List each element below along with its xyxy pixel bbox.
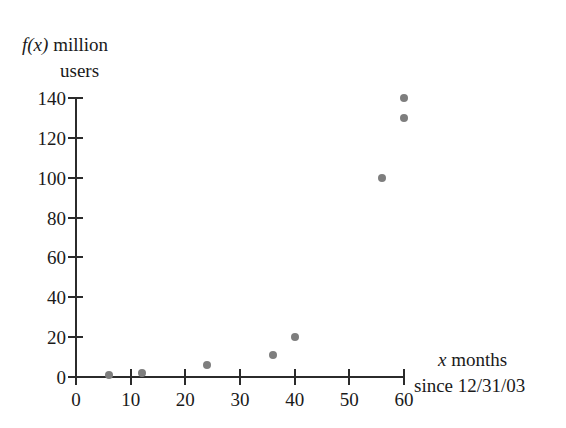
x-axis-tick-label: 50 [329,390,369,409]
y-axis-tick-label: 0 [18,368,66,387]
data-point [203,361,211,369]
x-axis-tick [184,369,186,385]
y-axis-title-function: f(x) [22,34,48,55]
y-axis-title-line2: users [60,58,99,84]
x-axis-tick [294,369,296,385]
x-axis-tick [348,369,350,385]
y-axis-tick [68,97,83,99]
x-axis-tick-label: 30 [220,390,260,409]
y-axis-tick [68,137,83,139]
x-axis-tick-label: 60 [384,390,424,409]
data-point [400,114,408,122]
x-axis-tick [403,369,405,385]
y-axis-title-line1: f(x) million [22,32,108,58]
y-axis-tick [68,256,83,258]
y-axis-title-units: million [48,34,108,55]
x-axis-tick-label: 10 [111,390,151,409]
data-point [378,174,386,182]
x-axis-tick [239,369,241,385]
x-axis-tick-label: 40 [275,390,315,409]
y-axis-tick [68,296,83,298]
y-axis-tick-label: 20 [18,328,66,347]
data-point [138,369,146,377]
data-point [105,371,113,379]
y-axis-tick [68,217,83,219]
x-axis-tick [130,369,132,385]
data-point [400,94,408,102]
x-axis-tick-label: 20 [165,390,205,409]
x-axis-title-units: months [446,349,507,370]
data-point [269,351,277,359]
y-axis-tick-label: 60 [18,248,66,267]
scatter-plot-figure: f(x) million users x months since 12/31/… [0,0,566,428]
y-axis-tick-label: 140 [18,89,66,108]
y-axis-tick [68,336,83,338]
y-axis-tick [68,177,83,179]
x-axis-title-line1: x months [438,347,507,373]
y-axis-tick-label: 120 [18,129,66,148]
y-axis-tick-label: 40 [18,288,66,307]
x-axis-tick-label: 0 [56,390,96,409]
x-axis-title-line2: since 12/31/03 [414,373,525,399]
y-axis-tick-label: 100 [18,169,66,188]
x-axis-tick [75,369,77,385]
y-axis-tick-label: 80 [18,209,66,228]
data-point [291,333,299,341]
